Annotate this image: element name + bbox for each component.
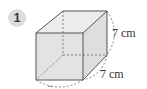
height-label: 7 cm [112, 26, 136, 41]
width-label: – [48, 80, 53, 89]
depth-label: 7 cm [100, 67, 124, 82]
cube-diagram [0, 0, 147, 89]
cube-front-face [36, 33, 83, 80]
